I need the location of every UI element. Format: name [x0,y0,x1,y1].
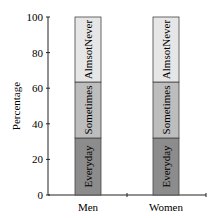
svg-text:20: 20 [32,153,44,165]
x-category-women: Women [149,201,183,213]
svg-text:0: 0 [38,189,44,201]
x-category-men: Men [78,201,99,213]
segment-label: Sometimes [82,86,94,135]
segment-label: AlmsotNever [160,20,172,80]
svg-text:80: 80 [32,47,44,59]
svg-text:60: 60 [32,82,44,94]
segment-label: Everyday [82,145,94,188]
bar-women: Everyday Sometimes AlmsotNever [153,17,179,195]
segment-label: Everyday [160,145,172,188]
y-axis-label: Percentage [10,82,22,130]
svg-text:40: 40 [32,118,44,130]
segment-label: AlmsotNever [82,20,94,80]
segment-label: Sometimes [160,86,172,135]
svg-text:100: 100 [27,11,44,23]
bar-men: Everyday Sometimes AlmsotNever [75,17,101,195]
y-tick-labels: 0 20 40 60 80 100 [27,11,44,201]
stacked-bar-chart: Percentage 0 20 40 60 80 100 Everyday So… [0,0,214,218]
